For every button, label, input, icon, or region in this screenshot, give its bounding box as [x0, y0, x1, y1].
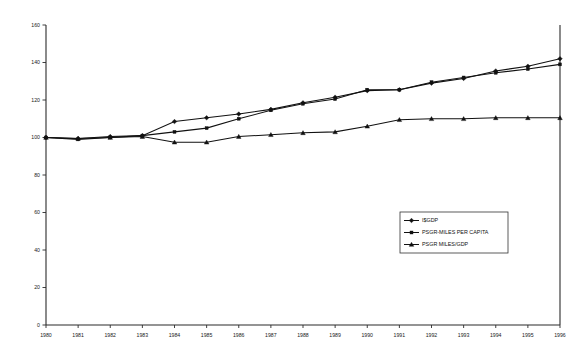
legend-label: PSGR-MILES PER CAPITA [422, 229, 489, 235]
data-point-square [462, 76, 465, 79]
data-point-square [526, 68, 529, 71]
data-point-square [494, 71, 497, 74]
x-tick-label: 1993 [458, 332, 470, 338]
x-tick-label: 1995 [522, 332, 534, 338]
data-point-square [366, 88, 369, 91]
data-point-square [398, 88, 401, 91]
x-tick-label: 1986 [233, 332, 245, 338]
y-tick-label: 80 [34, 172, 40, 178]
series-1 [44, 56, 563, 140]
data-point-square [269, 109, 272, 112]
data-point-diamond [236, 112, 241, 117]
x-tick-label: 1981 [72, 332, 84, 338]
x-tick-label: 1980 [40, 332, 52, 338]
y-tick-label: 100 [31, 134, 40, 140]
x-tick-label: 1992 [426, 332, 438, 338]
data-point-square [302, 102, 305, 105]
legend-label: I$GDP [422, 217, 439, 223]
x-tick-label: 1990 [361, 332, 373, 338]
chart-series-group [44, 56, 563, 144]
data-point-square [559, 63, 562, 66]
chart-container: 020406080100120140160 198019811982198319… [0, 0, 575, 353]
y-tick-label: 60 [34, 209, 40, 215]
data-point-diamond [558, 56, 563, 61]
y-tick-label: 140 [31, 59, 40, 65]
x-tick-label: 1987 [265, 332, 277, 338]
series-line [46, 118, 560, 142]
y-tick-label: 20 [34, 284, 40, 290]
series-line [46, 59, 560, 139]
data-point-square [205, 127, 208, 130]
x-tick-label: 1989 [329, 332, 341, 338]
y-tick-label: 120 [31, 97, 40, 103]
line-chart: 020406080100120140160 198019811982198319… [0, 0, 575, 353]
legend-label: PSGR MILES/GDP [422, 241, 469, 247]
data-point-square [237, 117, 240, 120]
data-point-square [430, 81, 433, 84]
x-tick-label: 1991 [394, 332, 406, 338]
data-point-square [173, 130, 176, 133]
y-tick-label: 160 [31, 22, 40, 28]
data-point-diamond [172, 119, 177, 124]
x-tick-label: 1994 [490, 332, 502, 338]
x-axis-ticks: 1980198119821983198419851986198719881989… [40, 325, 566, 338]
series-3 [44, 116, 563, 144]
data-point-square [410, 231, 413, 234]
x-tick-label: 1982 [104, 332, 116, 338]
x-tick-label: 1983 [137, 332, 149, 338]
data-point-square [334, 98, 337, 101]
x-tick-label: 1984 [169, 332, 181, 338]
chart-legend: I$GDPPSGR-MILES PER CAPITAPSGR MILES/GDP [400, 212, 508, 253]
x-tick-label: 1985 [201, 332, 213, 338]
y-axis-ticks: 020406080100120140160 [31, 22, 46, 328]
data-point-diamond [204, 116, 209, 121]
chart-axes [46, 25, 560, 325]
x-tick-label: 1996 [554, 332, 566, 338]
y-tick-label: 40 [34, 247, 40, 253]
y-tick-label: 0 [37, 322, 40, 328]
x-tick-label: 1988 [297, 332, 309, 338]
